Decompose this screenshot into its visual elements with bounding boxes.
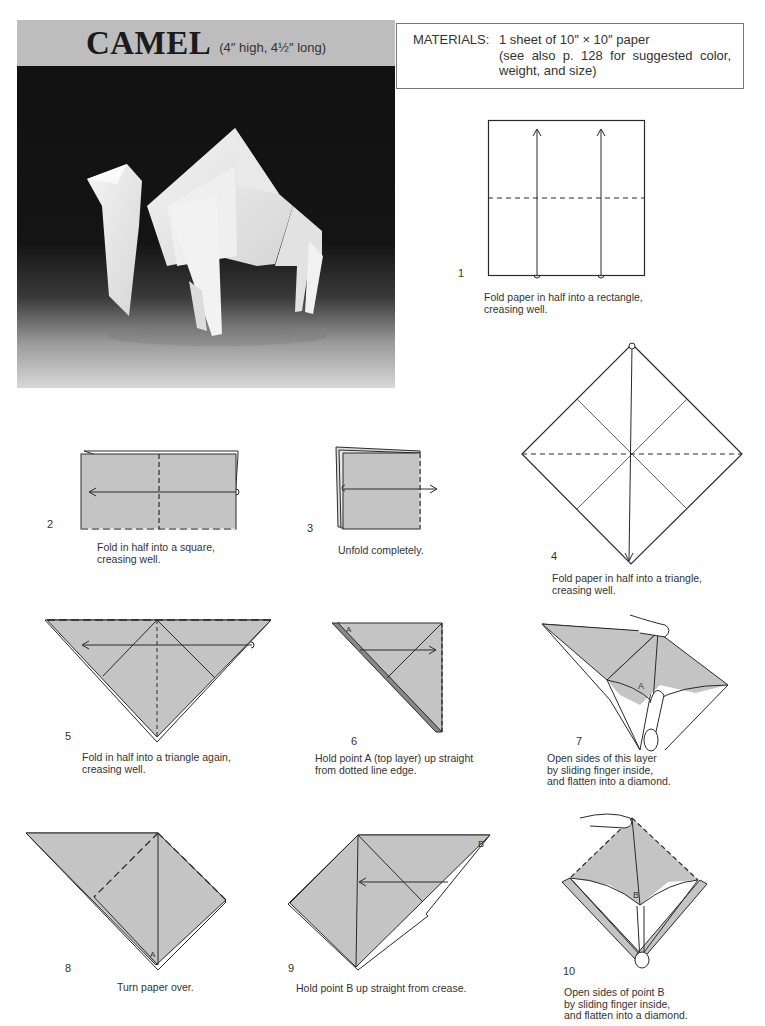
step-3-number: 3 [307,522,313,534]
camel-figure-icon [17,66,395,388]
step-7-diagram: A [540,605,740,760]
caption-line: from dotted line edge. [315,765,473,777]
caption-line: Hold point B up straight from crease. [296,983,466,995]
step-2-diagram [80,450,245,535]
caption-line: creasing well. [82,764,231,776]
caption-line: creasing well. [97,554,215,566]
point-b-label: B [633,890,639,900]
step-8-caption: Turn paper over. [117,982,194,994]
step-10-number: 10 [563,965,575,977]
caption-line: Fold in half into a triangle again, [82,752,231,764]
step-9-number: 9 [288,962,294,974]
caption-line: Fold paper in half into a rectangle, [484,292,643,304]
step-5-number: 5 [65,730,71,742]
caption-line: Fold paper in half into a triangle, [552,573,702,585]
step-4-caption: Fold paper in half into a triangle, crea… [552,573,702,596]
step-7-caption: Open sides of this layer by sliding fing… [547,753,671,788]
step-2-number: 2 [47,518,53,530]
caption-line: creasing well. [484,304,643,316]
caption-line: creasing well. [552,585,702,597]
page-title: CAMEL (4″ high, 4½″ long) [17,20,395,66]
caption-line: Hold point A (top layer) up straight [315,753,473,765]
step-5-diagram [45,618,275,743]
point-a-label: A [150,950,156,959]
step-6-diagram: A [332,620,447,735]
step-6-caption: Hold point A (top layer) up straight fro… [315,753,473,776]
point-b-label: B [478,839,484,849]
step-8-number: 8 [65,962,71,974]
caption-line: Fold in half into a square, [97,542,215,554]
step-6-number: 6 [351,735,357,747]
step-3-caption: Unfold completely. [338,545,424,557]
step-10-caption: Open sides of point B by sliding finger … [564,987,688,1022]
step-1-diagram [488,120,648,280]
step-7-number: 7 [576,735,582,747]
materials-label: MATERIALS: [413,32,489,47]
caption-line: and flatten into a diamond. [564,1010,688,1022]
caption-line: Turn paper over. [117,982,194,994]
step-4-diagram [521,343,746,568]
caption-line: and flatten into a diamond. [547,776,671,788]
point-a-label: A [346,625,352,634]
step-1-caption: Fold paper in half into a rectangle, cre… [484,292,643,315]
step-8-diagram: A [26,830,231,975]
step-4-number: 4 [551,550,557,562]
materials-quantity: 1 sheet of 10″ × 10″ paper [499,32,650,47]
caption-line: Open sides of this layer [547,753,671,765]
step-9-diagram: B [288,834,493,974]
step-1-number: 1 [458,267,464,279]
materials-note: (see also p. 128 for suggested color, we… [499,48,731,78]
step-2-caption: Fold in half into a square, creasing wel… [97,542,215,565]
caption-line: Open sides of point B [564,987,688,999]
caption-line: Unfold completely. [338,545,424,557]
title-dimensions: (4″ high, 4½″ long) [219,40,326,55]
point-a-label: A [638,681,644,691]
title-main: CAMEL [86,25,211,62]
step-9-caption: Hold point B up straight from crease. [296,983,466,995]
step-5-caption: Fold in half into a triangle again, crea… [82,752,231,775]
materials-box: MATERIALS: 1 sheet of 10″ × 10″ paper (s… [396,23,744,89]
step-10-diagram: B [560,810,705,970]
step-3-diagram [336,445,446,535]
